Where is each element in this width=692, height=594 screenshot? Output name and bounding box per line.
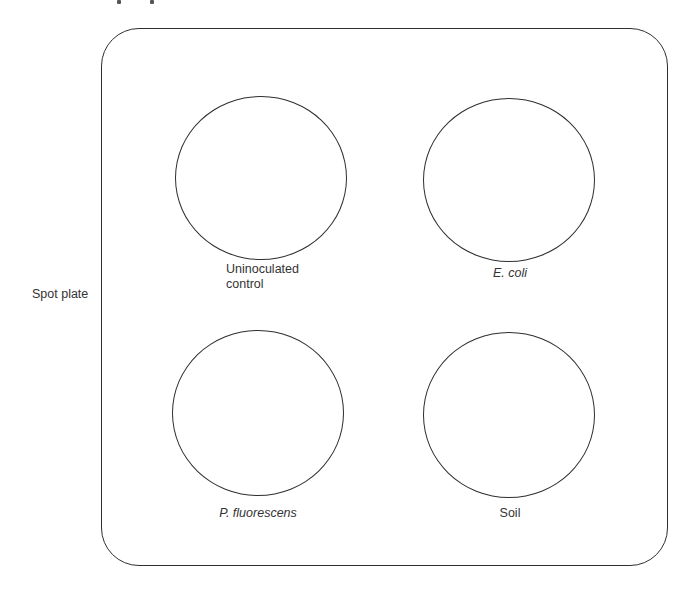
label-uninoculated-control: Uninoculated control [226,262,299,292]
spot-plate-diagram: Spot plate Uninoculated control E. coli … [0,0,692,594]
cropped-text-fragment [117,0,121,4]
label-p-fluorescens: P. fluorescens [219,506,297,521]
label-soil: Soil [500,506,521,521]
label-line-1: Uninoculated [226,262,299,277]
cropped-text-fragment [150,0,154,4]
spot-plate-outline [101,28,668,566]
well-e-coli [423,98,595,262]
label-line-2: control [226,277,299,292]
label-e-coli: E. coli [493,266,527,281]
well-p-fluorescens [172,330,344,496]
spot-plate-label: Spot plate [32,287,88,302]
well-soil [423,332,595,498]
well-uninoculated-control [175,96,347,260]
